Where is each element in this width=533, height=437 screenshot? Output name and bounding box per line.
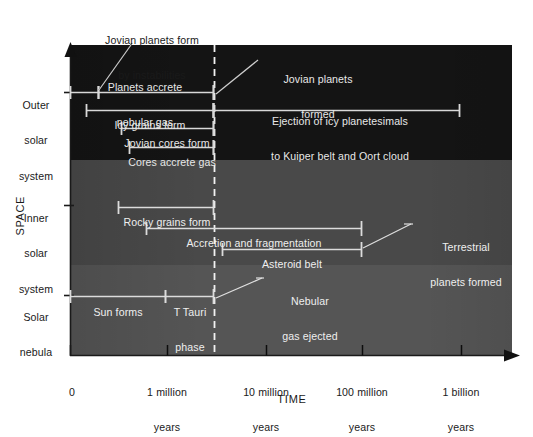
x-tick-label-1-million: 1 million years (127, 363, 207, 437)
band-label-outer-line3: system (0, 171, 73, 183)
x-tick-label-1b-line2: years (421, 422, 501, 434)
bar-label-planets-accrete-line1: Planets accrete (70, 82, 220, 94)
bar-label-t-tauri-line1: T Tauri (160, 307, 220, 319)
x-axis-title: TIME (252, 393, 332, 405)
bar-label-asteroid-belt-line1: Asteroid belt (227, 259, 357, 271)
bar-label-cores-accrete-gas: Cores accrete gas (105, 133, 240, 192)
band-label-nebula-line2: nebula (0, 347, 73, 359)
callout-jovian-formed-line1: Jovian planets (248, 74, 388, 86)
callout-terrestrial-line2: planets formed (404, 277, 528, 289)
callout-jovian-planets-formed: Jovian planets formed (248, 50, 388, 145)
band-label-outer-line2: solar (0, 135, 73, 147)
x-tick-label-1m-line2: years (127, 422, 207, 434)
callout-terrestrial-line1: Terrestrial (404, 242, 528, 254)
bar-label-sun-forms: Sun forms (63, 283, 173, 342)
x-tick-label-10m-line2: years (223, 422, 309, 434)
callout-jovian-formed-line2: formed (248, 109, 388, 121)
band-label-inner-line2: solar (0, 248, 73, 260)
x-tick-label-100m-line2: years (315, 422, 409, 434)
x-tick-label-0-line1: 0 (52, 387, 92, 399)
callout-nebular-line2: gas ejected (255, 331, 365, 343)
bar-label-t-tauri-line2: phase (160, 342, 220, 354)
band-label-inner-line1: Inner (0, 213, 73, 225)
x-tick-label-1m-line1: 1 million (127, 387, 207, 399)
bar-label-cores-accrete-line1: Cores accrete gas (105, 157, 240, 169)
callout-terrestrial-planets-formed: Terrestrial planets formed (404, 218, 528, 313)
callout-nebular-line1: Nebular (255, 296, 365, 308)
bar-label-sun-forms-line1: Sun forms (63, 307, 173, 319)
x-tick-label-0: 0 (52, 363, 92, 422)
bar-label-ejection-line2: to Kuiper belt and Oort cloud (235, 151, 445, 163)
x-tick-label-1b-line1: 1 billion (421, 387, 501, 399)
x-tick-label-1-billion: 1 billion years (421, 363, 501, 437)
callout-jovian-form-line1: Jovian planets form (62, 35, 242, 47)
callout-nebular-gas-ejected: Nebular gas ejected (255, 272, 365, 367)
